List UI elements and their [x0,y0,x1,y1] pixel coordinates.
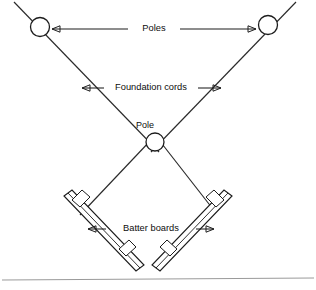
label-pole: Pole [136,120,154,130]
cord-line-lower-right [159,140,216,213]
cord-line-lower-left [80,140,151,215]
pole-circle-top-right [259,16,278,35]
figure-container: Poles Foundation cords Pole Batter board… [0,0,316,290]
label-poles: Poles [142,23,166,33]
label-batter-boards: Batter boards [123,223,179,233]
label-foundation-cords: Foundation cords [115,82,187,92]
construction-layout-diagram: Poles Foundation cords Pole Batter board… [0,0,316,290]
pole-circle-center [146,133,164,151]
pole-circle-top-left [31,18,50,37]
bottom-divider-rule [2,278,314,280]
